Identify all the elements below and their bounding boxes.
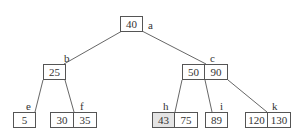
node-c: 50 90 [182,64,228,80]
edge-b-e [35,80,43,112]
node-label-e: e [26,101,31,112]
node-b: 25 [43,64,66,80]
key-cell: 89 [205,112,228,128]
key-cell: 90 [205,64,228,80]
edge-a-c [142,31,206,64]
node-label-b: b [64,53,70,64]
key-cell: 50 [182,64,205,80]
key-cell-highlighted: 43 [152,112,175,128]
edge-c-h [175,80,182,112]
key-cell: 40 [120,16,143,32]
key-cell: 75 [175,112,198,128]
node-i: 89 [205,112,228,128]
edge-b-f [65,80,74,112]
node-label-h: h [163,101,169,112]
node-a: 40 [120,16,143,32]
key-cell: 5 [13,112,36,128]
key-cell: 120 [245,112,268,128]
node-label-k: k [272,101,278,112]
key-cell: 35 [74,112,97,128]
node-h: 43 75 [152,112,198,128]
edge-c-k [228,80,267,112]
node-k: 120 130 [245,112,291,128]
key-cell: 130 [268,112,291,128]
key-cell: 30 [50,112,74,128]
key-cell: 25 [43,64,66,80]
tree-diagram: 40 a 25 b 50 90 c 5 e 30 35 f 43 75 h 89… [0,0,300,136]
node-label-i: i [220,101,223,112]
node-label-c: c [210,53,215,64]
edge-a-b [64,31,122,64]
node-e: 5 [13,112,36,128]
node-label-a: a [148,20,153,31]
node-label-f: f [80,101,84,112]
node-f: 30 35 [50,112,97,128]
edge-c-i [205,80,212,112]
